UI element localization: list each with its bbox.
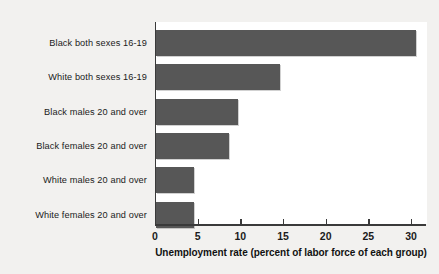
x-tick-mark <box>240 219 241 225</box>
category-label: White females 20 and over <box>0 210 147 220</box>
x-tick-label: 30 <box>396 230 426 242</box>
x-tick-mark <box>326 219 327 225</box>
category-label: Black females 20 and over <box>0 141 147 151</box>
category-label: White males 20 and over <box>0 175 147 185</box>
x-tick-label: 10 <box>225 230 255 242</box>
x-tick-label: 0 <box>140 230 170 242</box>
x-tick-label: 15 <box>268 230 298 242</box>
x-tick-mark <box>283 219 284 225</box>
category-label: Black both sexes 16-19 <box>0 38 147 48</box>
category-label: White both sexes 16-19 <box>0 72 147 82</box>
bar <box>156 30 416 56</box>
x-tick-label: 5 <box>183 230 213 242</box>
x-tick-mark <box>155 219 156 225</box>
bar <box>156 133 229 159</box>
x-axis-line <box>155 224 426 226</box>
x-tick-mark <box>411 219 412 225</box>
bar <box>156 167 194 193</box>
x-tick-mark <box>368 219 369 225</box>
x-tick-label: 25 <box>353 230 383 242</box>
bar <box>156 99 238 125</box>
category-axis-labels: Black both sexes 16-19White both sexes 1… <box>0 22 147 224</box>
x-tick-label: 20 <box>311 230 341 242</box>
category-label: Black males 20 and over <box>0 107 147 117</box>
bars-layer <box>156 22 427 224</box>
x-tick-mark <box>198 219 199 225</box>
unemployment-rate-bar-chart: Black both sexes 16-19White both sexes 1… <box>0 0 439 274</box>
bar <box>156 64 280 90</box>
x-axis-title: Unemployment rate (percent of labor forc… <box>150 247 432 258</box>
